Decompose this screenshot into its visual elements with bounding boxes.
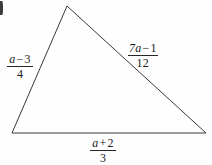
left-label-numerator: a−3 [8,53,31,66]
right-label-denominator: 12 [137,56,149,69]
bottom-numerator-number: 2 [107,136,113,150]
left-numerator-variable: a [9,52,15,66]
bottom-label-denominator: 3 [100,151,106,164]
right-label-numerator: 7a−1 [128,42,158,55]
left-side-label: a−3 4 [7,53,33,80]
triangle-figure: a−3 4 7a−1 12 a+2 3 [0,0,212,165]
triangle-outline [12,6,206,133]
left-numerator-number: 3 [24,52,30,66]
left-label-denominator: 4 [17,67,23,80]
right-numerator-variable: 7a [129,41,141,55]
right-numerator-number: 1 [150,41,156,55]
bottom-side-label: a+2 3 [90,137,116,164]
right-side-label: 7a−1 12 [128,42,158,69]
bottom-label-numerator: a+2 [91,137,114,150]
bottom-numerator-variable: a [92,136,98,150]
